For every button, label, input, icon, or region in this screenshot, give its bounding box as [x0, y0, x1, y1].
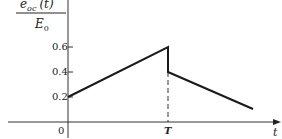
svg-text:E0: E0 [34, 17, 49, 33]
x-axis-arrow-icon [273, 119, 281, 125]
y-tick-0.6: 0.6 [52, 41, 68, 52]
y-label-numerator: e [20, 0, 27, 11]
y-label-numerator-sub: oc [27, 4, 37, 13]
y-ticks: 0.6 0.4 0.2 [52, 41, 73, 102]
y-label-denominator: E [34, 17, 44, 31]
origin-label: 0 [58, 125, 64, 136]
y-axis-label: eoc(t) E0 [16, 0, 66, 33]
y-tick-0.2: 0.2 [52, 91, 68, 102]
svg-text:eoc(t): eoc(t) [20, 0, 54, 13]
y-label-numerator-arg: (t) [39, 0, 54, 11]
chart: eoc(t) E0 0.6 0.4 0.2 0 T t [0, 0, 282, 139]
waveform-line [68, 47, 253, 109]
y-tick-0.4: 0.4 [52, 66, 68, 77]
x-tick-T: T [164, 125, 173, 136]
y-label-denominator-sub: 0 [44, 24, 49, 33]
x-axis-label: t [273, 126, 278, 139]
